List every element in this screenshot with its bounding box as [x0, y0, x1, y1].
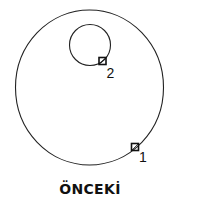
circle-diagram: 2 1 — [0, 0, 222, 202]
point-2-label: 2 — [107, 65, 115, 81]
point-1-label: 1 — [139, 149, 147, 165]
diagram-caption: ÖNCEKİ — [0, 181, 180, 197]
outer-circle — [16, 10, 164, 165]
point-2-marker — [99, 58, 106, 65]
